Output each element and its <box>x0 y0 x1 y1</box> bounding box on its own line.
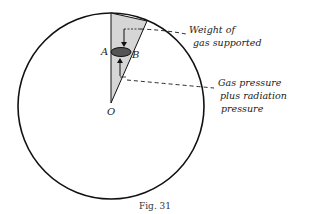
pressure-label-line2: plus radiation <box>220 90 287 101</box>
weight-label-line2: gas supported <box>193 37 262 48</box>
figure-caption: Fig. 31 <box>139 201 171 211</box>
gas-element <box>111 48 131 57</box>
weight-label-line1: Weight of <box>189 24 236 35</box>
cone-sector <box>111 13 147 103</box>
pressure-label-line1: Gas pressure <box>218 77 282 88</box>
pressure-label-line3: pressure <box>221 103 264 114</box>
point-label-a: A <box>100 46 108 57</box>
star-diagram: A B O Weight of gas supported Gas pressu… <box>0 0 311 214</box>
point-label-b: B <box>131 49 139 60</box>
point-label-o: O <box>107 106 115 117</box>
